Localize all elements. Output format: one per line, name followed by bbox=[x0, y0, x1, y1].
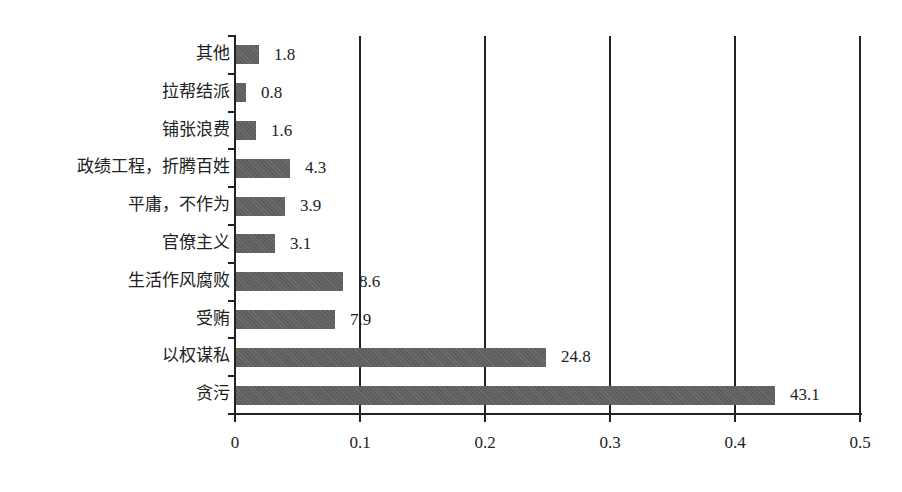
value-label: 4.3 bbox=[305, 158, 326, 178]
value-label: 1.8 bbox=[274, 45, 295, 65]
value-label: 3.1 bbox=[290, 234, 311, 254]
gridline bbox=[734, 36, 736, 414]
x-tick-mark bbox=[359, 414, 361, 422]
x-tick-label: 0.4 bbox=[715, 433, 755, 453]
x-tick-mark bbox=[234, 414, 236, 422]
x-axis-line bbox=[234, 413, 862, 415]
y-tick-mark bbox=[228, 337, 236, 339]
x-tick-label: 0 bbox=[215, 433, 255, 453]
bar bbox=[236, 83, 246, 102]
bar bbox=[236, 386, 775, 405]
x-tick-label: 0.2 bbox=[465, 433, 505, 453]
value-label: 43.1 bbox=[790, 385, 820, 405]
bar bbox=[236, 348, 546, 367]
x-tick-mark bbox=[859, 414, 861, 422]
value-label: 1.6 bbox=[271, 121, 292, 141]
value-label: 8.6 bbox=[359, 272, 380, 292]
x-tick-label: 0.5 bbox=[840, 433, 880, 453]
y-tick-mark bbox=[228, 73, 236, 75]
x-tick-mark bbox=[484, 414, 486, 422]
bar bbox=[236, 197, 285, 216]
value-label: 7.9 bbox=[350, 310, 371, 330]
horizontal-bar-chart: 00.10.20.30.40.5 其他1.8拉帮结派0.8铺张浪费1.6政绩工程… bbox=[0, 0, 902, 492]
category-label: 生活作风腐败 bbox=[128, 271, 230, 291]
category-label: 拉帮结派 bbox=[162, 82, 230, 102]
y-tick-mark bbox=[228, 224, 236, 226]
x-tick-mark bbox=[609, 414, 611, 422]
y-tick-mark bbox=[228, 300, 236, 302]
bar bbox=[236, 159, 290, 178]
y-tick-mark bbox=[228, 35, 236, 37]
category-label: 以权谋私 bbox=[162, 346, 230, 366]
value-label: 3.9 bbox=[300, 196, 321, 216]
category-label: 官僚主义 bbox=[162, 233, 230, 253]
category-label: 受贿 bbox=[196, 309, 230, 329]
x-tick-label: 0.3 bbox=[590, 433, 630, 453]
x-tick-mark bbox=[734, 414, 736, 422]
y-tick-mark bbox=[228, 186, 236, 188]
y-tick-mark bbox=[228, 375, 236, 377]
bar bbox=[236, 45, 259, 64]
category-label: 平庸，不作为 bbox=[128, 195, 230, 215]
bar bbox=[236, 310, 335, 329]
y-tick-mark bbox=[228, 262, 236, 264]
category-label: 政绩工程，折腾百姓 bbox=[77, 157, 230, 177]
bar bbox=[236, 272, 343, 291]
value-label: 0.8 bbox=[261, 83, 282, 103]
category-label: 贪污 bbox=[196, 384, 230, 404]
value-label: 24.8 bbox=[561, 347, 591, 367]
y-tick-mark bbox=[228, 148, 236, 150]
gridline bbox=[609, 36, 611, 414]
y-tick-mark bbox=[228, 111, 236, 113]
bar bbox=[236, 121, 256, 140]
category-label: 其他 bbox=[196, 44, 230, 64]
gridline bbox=[859, 36, 861, 414]
category-label: 铺张浪费 bbox=[162, 120, 230, 140]
x-tick-label: 0.1 bbox=[340, 433, 380, 453]
bar bbox=[236, 234, 275, 253]
